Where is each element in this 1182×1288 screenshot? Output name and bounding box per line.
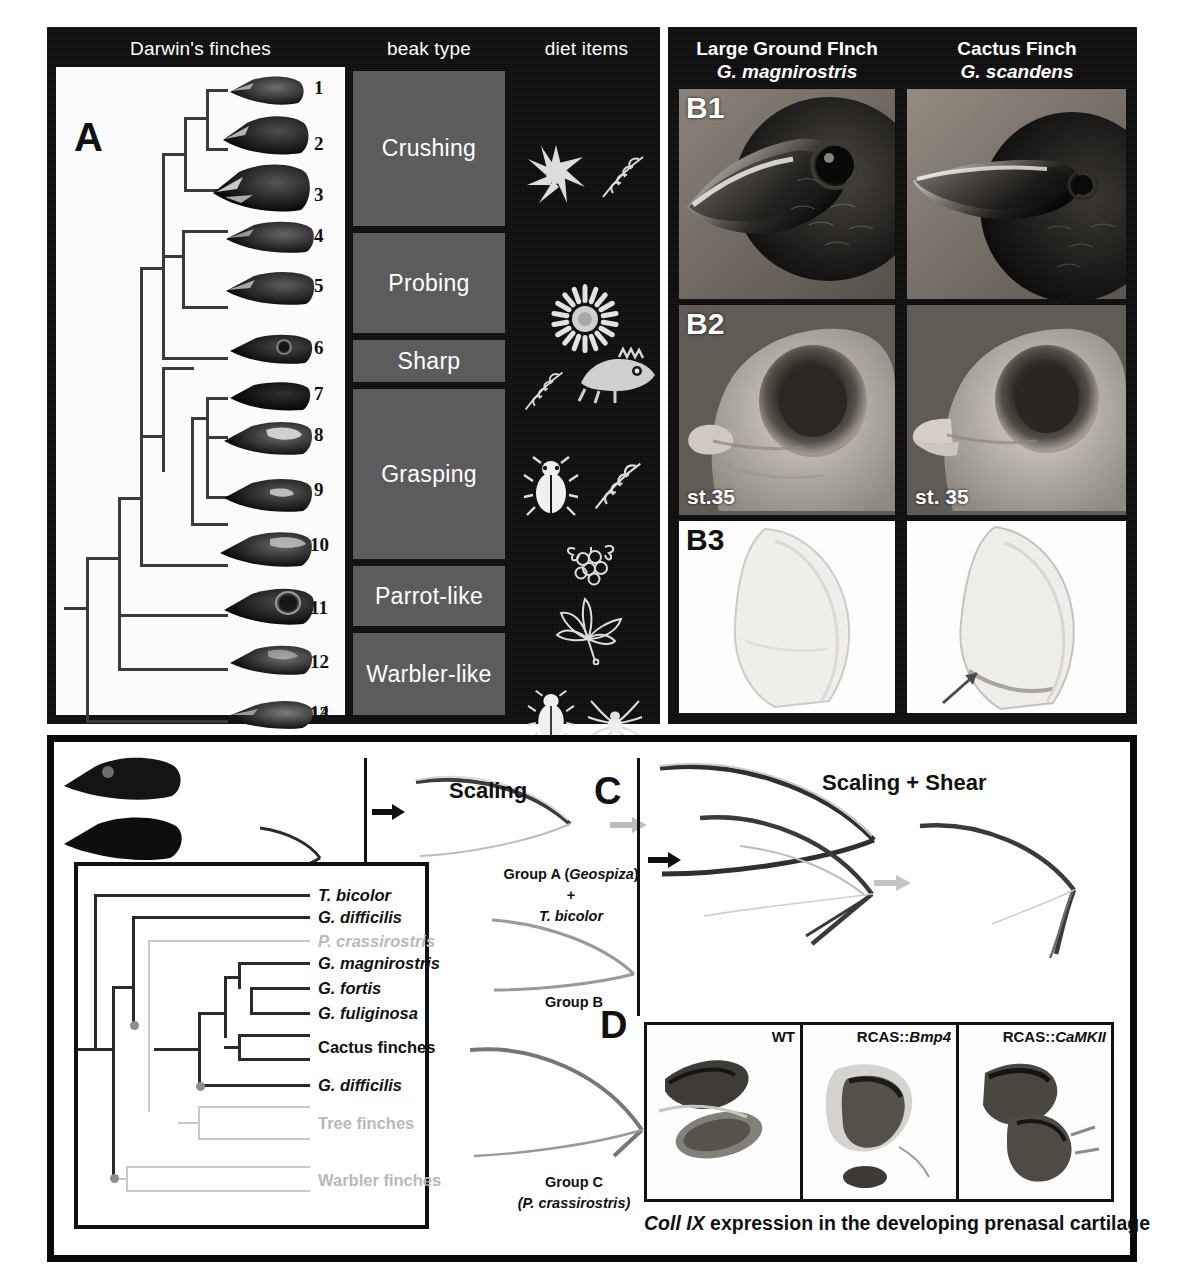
beak-type-label: Crushing	[382, 135, 476, 162]
beak-type-block: Crushing	[353, 71, 505, 226]
beak-number: 12	[310, 651, 329, 673]
panel-d-camkii-prefix: RCAS::	[1003, 1028, 1056, 1045]
beak-thumbnail	[228, 332, 314, 370]
beak-type-block: Sharp	[353, 340, 505, 382]
panel-d-caption-rest: expression in the developing prenasal ca…	[705, 1212, 1150, 1234]
beak-thumbnail	[228, 73, 306, 111]
grain-ear-icon	[597, 151, 649, 207]
panel-d-cell-camkii: RCAS::CaMKII	[959, 1025, 1111, 1199]
grain-ear-icon	[589, 457, 647, 519]
panel-c-label: C	[594, 770, 621, 813]
beak-number: 10	[310, 534, 329, 556]
divider-vertical-left	[364, 758, 367, 866]
column-header-diet-items: diet items	[513, 35, 660, 63]
lizard-icon	[575, 345, 659, 411]
leaf-icon	[551, 595, 625, 669]
panel-b-species: G. scandens	[961, 61, 1074, 82]
panel-b2-right-stage: st. 35	[915, 485, 969, 509]
panel-b-column1-title: Large Ground FInch G. magnirostris	[676, 37, 898, 83]
panel-b3-right-image	[907, 521, 1126, 713]
panel-d-caption: Coll IX expression in the developing pre…	[644, 1212, 1114, 1235]
panel-b2-label: B2	[686, 307, 724, 341]
tree-taxon-label: G. difficilis	[318, 908, 402, 927]
panel-d-cell-bmp4: RCAS::Bmp4	[803, 1025, 959, 1199]
spiky-seed-icon	[525, 143, 587, 209]
beak-thumbnail	[221, 113, 311, 161]
panel-b1-right-image	[907, 89, 1126, 299]
beak-thumbnail	[228, 643, 314, 681]
tree-taxon-label: G. difficilis	[318, 1076, 402, 1095]
column-header-finches: Darwin's finches	[56, 35, 345, 63]
panel-b-species: G. magnirostris	[717, 61, 857, 82]
beak-thumbnail	[222, 419, 314, 461]
cladogram-board: A	[56, 67, 345, 715]
panel-d-cell-wt: WT	[647, 1025, 803, 1199]
tree-taxon-label: G. fortis	[318, 979, 381, 998]
arrow-gray-scaling	[610, 816, 648, 838]
beak-shear-result	[914, 812, 1104, 966]
panel-b2-right-image: st. 35	[907, 305, 1126, 515]
beak-type-label: Warbler-like	[366, 661, 491, 688]
group-c-line1: Group C	[545, 1174, 603, 1190]
beak-type-block: Warbler-like	[353, 633, 505, 715]
panel-d-camkii-gene: CaMKII	[1055, 1028, 1106, 1045]
group-a-line1: Group A (	[503, 866, 569, 882]
beak-type-block: Parrot-like	[353, 566, 505, 626]
tree-taxon-label: G. fuliginosa	[318, 1004, 418, 1023]
beak-number: 5	[314, 275, 324, 297]
beak-number: 4	[314, 225, 324, 247]
group-c-label: Group C (P. crassirostris)	[494, 1172, 654, 1214]
group-c-line2: (P. crassirostris)	[518, 1195, 631, 1211]
group-a-genus: Geospiza	[569, 866, 633, 882]
column-header-beak-type: beak type	[353, 35, 505, 63]
berries-icon	[561, 535, 623, 597]
scaling-shear-title: Scaling + Shear	[822, 770, 986, 796]
panel-a-label: A	[74, 115, 103, 160]
group-b-line1: Group B	[545, 994, 603, 1010]
panel-d-label-bmp4: RCAS::Bmp4	[857, 1028, 951, 1045]
beak-number: 9	[314, 479, 324, 501]
panel-b3-label: B3	[686, 523, 724, 557]
tree-taxon-label: Tree finches	[318, 1114, 414, 1133]
group-a-plus: +	[567, 887, 575, 903]
beak-thumbnail	[228, 380, 312, 416]
phylogenetic-tree: T. bicolor G. difficilis P. crassirostri…	[74, 862, 429, 1229]
arrow-gray-shear	[874, 874, 912, 896]
group-a-line1b: )	[634, 866, 639, 882]
panel-d-bmp4-prefix: RCAS::	[857, 1028, 910, 1045]
panel-a: Darwin's finches beak type diet items A	[47, 27, 660, 724]
beak-number: 3	[314, 184, 324, 206]
figure-root: Darwin's finches beak type diet items A	[0, 0, 1182, 1288]
panel-d: WT RCAS::Bmp4	[644, 1022, 1114, 1202]
beak-number: 1	[314, 77, 324, 99]
panel-b2-left-stage: st.35	[687, 485, 735, 509]
panel-b3-left-image: B3	[679, 521, 895, 713]
beak-number: 7	[314, 383, 324, 405]
beak-thumbnail	[218, 529, 314, 573]
beak-thumbnail	[224, 269, 316, 311]
bottom-inner: Scaling C Scaling + Shear	[54, 742, 1130, 1255]
panel-d-bmp4-gene: Bmp4	[909, 1028, 951, 1045]
beak-type-block: Probing	[353, 233, 505, 333]
beak-number: 8	[314, 424, 324, 446]
beak-thumbnail	[222, 585, 316, 631]
scaling-title: Scaling	[449, 778, 527, 804]
beak-number-14: 14	[310, 702, 329, 724]
beak-type-label: Probing	[388, 270, 469, 297]
beak-thumbnail	[222, 476, 314, 518]
panel-b1-label: B1	[686, 91, 724, 125]
beak-type-label: Parrot-like	[375, 583, 483, 610]
panel-b: Large Ground FInch G. magnirostris Cactu…	[668, 27, 1137, 724]
beak-silhouette-lower	[62, 812, 187, 868]
panel-b-common-name: Cactus Finch	[906, 37, 1128, 60]
top-block: Darwin's finches beak type diet items A	[47, 27, 1137, 724]
beak-shear-source	[694, 804, 904, 958]
panel-b2-left-image: B2 st.35	[679, 305, 895, 515]
panel-b-common-name: Large Ground FInch	[676, 37, 898, 60]
panel-d-label-wt: WT	[772, 1028, 795, 1045]
tree-taxon-label: G. magnirostris	[318, 954, 440, 973]
beak-type-block: Grasping	[353, 389, 505, 559]
beak-number: 2	[314, 133, 324, 155]
panel-b-column2-title: Cactus Finch G. scandens	[906, 37, 1128, 83]
beak-thumbnail-14-wrap	[226, 698, 316, 734]
